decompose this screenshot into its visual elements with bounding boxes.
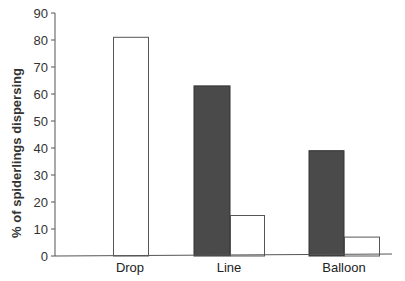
x-category-label: Balloon — [322, 260, 365, 275]
bar-chart: 0102030405060708090 DropLineBalloon % of… — [0, 0, 405, 281]
y-tick-label: 30 — [34, 168, 48, 183]
y-tick-label: 0 — [41, 249, 48, 264]
bar-white-line — [231, 216, 265, 257]
y-tick-label: 20 — [34, 195, 48, 210]
y-tick-label: 40 — [34, 141, 48, 156]
bar-dark-balloon — [309, 151, 344, 256]
bar-dark-line — [194, 86, 230, 256]
y-tick-label: 10 — [34, 222, 48, 237]
x-category-label: Drop — [116, 260, 144, 275]
x-category-label: Line — [217, 260, 242, 275]
bars — [114, 37, 380, 256]
y-tick-label: 60 — [34, 87, 48, 102]
y-tick-label: 70 — [34, 60, 48, 75]
bar-white-balloon — [345, 237, 380, 256]
y-tick-label: 90 — [34, 6, 48, 21]
bar-white-drop — [114, 37, 149, 256]
y-axis-label: % of spiderlings dispersing — [9, 68, 24, 238]
y-axis: 0102030405060708090 — [34, 6, 55, 264]
x-axis: DropLineBalloon — [55, 254, 392, 275]
y-tick-label: 80 — [34, 33, 48, 48]
y-tick-label: 50 — [34, 114, 48, 129]
